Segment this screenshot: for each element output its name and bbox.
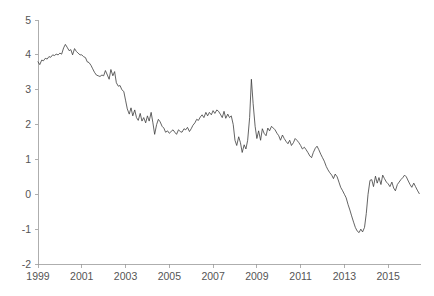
y-tick-label: -1 <box>22 223 31 235</box>
x-tick-label: 2007 <box>201 270 225 282</box>
x-tick-label: 2003 <box>114 270 138 282</box>
x-tick-label: 2005 <box>158 270 182 282</box>
y-tick-label: -2 <box>22 258 31 270</box>
x-axis-ticks: 199920012003200520072009201120132015 <box>26 264 400 282</box>
y-tick-label: 4 <box>25 48 31 60</box>
x-tick-label: 2009 <box>245 270 269 282</box>
data-series-line <box>38 44 419 232</box>
y-axis-ticks: -2-1012345 <box>22 14 38 270</box>
y-tick-label: 1 <box>25 153 31 165</box>
y-tick-label: 3 <box>25 83 31 95</box>
y-tick-label: 5 <box>25 14 31 26</box>
x-tick-label: 2011 <box>289 270 312 282</box>
x-tick-label: 2015 <box>376 270 400 282</box>
x-tick-label: 2013 <box>333 270 357 282</box>
x-tick-label: 1999 <box>26 270 50 282</box>
y-tick-label: 2 <box>25 118 31 130</box>
chart-figure: -2-1012345 19992001200320052007200920112… <box>0 0 434 296</box>
line-chart: -2-1012345 19992001200320052007200920112… <box>0 0 434 296</box>
x-tick-label: 2001 <box>70 270 94 282</box>
y-tick-label: 0 <box>25 188 31 200</box>
